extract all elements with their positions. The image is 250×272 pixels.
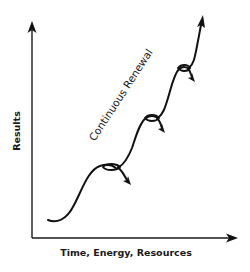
curve-stage-2 [119, 116, 158, 167]
y-axis: Results [11, 21, 37, 238]
x-axis-label: Time, Energy, Resources [60, 247, 192, 258]
continuous-renewal-diagram: Results Time, Energy, Resources Co [0, 0, 250, 272]
curve-label: Continuous Renewal [86, 47, 154, 143]
x-axis: Time, Energy, Resources [32, 234, 238, 259]
y-axis-label: Results [11, 111, 22, 151]
renewal-curve [48, 15, 205, 221]
curve-final-rise [189, 25, 201, 68]
curve-stage-3 [158, 67, 189, 118]
decline-arrow-1 [118, 167, 127, 180]
curve-stage-1 [48, 165, 116, 221]
decline-arrow-1-icon [123, 176, 131, 185]
decline-arrow-2 [157, 118, 162, 128]
